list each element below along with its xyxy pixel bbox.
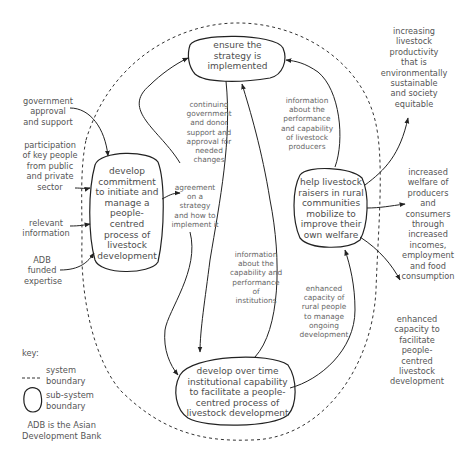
flow-agreement: agreement on a strategy and how to imple… xyxy=(170,183,220,229)
flow-info-institutions: information about the capability and per… xyxy=(228,250,284,305)
flow-info-producers: information about the performance and ca… xyxy=(278,96,336,151)
input-government-approval: government approval and support xyxy=(18,96,78,127)
flow-continuing-support: continuing government and donor support … xyxy=(180,100,238,164)
output-capacity: enhanced capacity to facilitate people- … xyxy=(386,314,448,387)
node-help-livestock: help livestock raisers in rural communit… xyxy=(296,177,366,241)
output-welfare: increased welfare of producers and consu… xyxy=(396,167,460,281)
node-develop-commitment: develop commitment to initiate and manag… xyxy=(93,166,161,261)
key-note: ADB is the Asian Development Bank xyxy=(22,420,101,441)
input-adb-expertise: ADB funded expertise xyxy=(24,255,60,286)
node-develop-institutional: develop over time institutional capabili… xyxy=(180,366,295,419)
node-ensure-strategy: ensure the strategy is implemented xyxy=(195,40,280,72)
key-subsystem-shape xyxy=(24,388,42,412)
input-participation: participation of key people from public … xyxy=(18,140,82,192)
output-productivity: increasing livestock productivity that i… xyxy=(376,26,452,109)
key-subsystem-boundary: sub-system boundary xyxy=(46,390,94,411)
input-relevant-information: relevant information xyxy=(18,218,74,239)
key-title: key: xyxy=(22,348,39,359)
key-system-boundary: system boundary xyxy=(46,365,86,386)
flow-enhanced-rural: enhanced capacity of rural people to man… xyxy=(296,284,352,339)
